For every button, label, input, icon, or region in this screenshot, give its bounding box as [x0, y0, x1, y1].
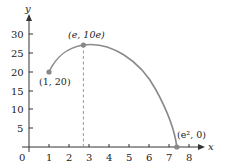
- x-tick-label: 8: [186, 152, 192, 163]
- point-label: (1, 20): [39, 76, 71, 87]
- curve: [49, 44, 177, 147]
- point-e-10e: [81, 42, 86, 47]
- origin-label: 0: [19, 152, 25, 163]
- y-tick-label: 30: [11, 29, 24, 40]
- y-ticks: [29, 34, 33, 128]
- x-axis-label: x: [208, 141, 214, 152]
- x-tick-label: 6: [146, 152, 152, 163]
- point-label: (e, 10e): [68, 29, 105, 40]
- point-e2-0: [174, 144, 179, 149]
- point-label: (e², 0): [177, 129, 206, 140]
- point-1-20: [46, 69, 51, 74]
- x-tick-label: 7: [166, 152, 172, 163]
- y-axis-label: y: [24, 3, 31, 14]
- x-axis-arrow-icon: [198, 144, 205, 150]
- x-tick-label: 3: [86, 152, 92, 163]
- x-tick-label: 4: [106, 152, 112, 163]
- y-tick-label: 5: [17, 123, 23, 134]
- chart: x y 0 1 2 3 4 5 6 7 8 5 10 15 20 25 30 (…: [0, 0, 225, 168]
- y-tick-label: 25: [11, 48, 24, 59]
- y-tick-label: 20: [11, 67, 24, 78]
- y-tick-label: 10: [11, 104, 24, 115]
- y-axis-arrow-icon: [26, 14, 32, 21]
- x-tick-label: 2: [66, 152, 72, 163]
- y-tick-label: 15: [11, 86, 24, 97]
- x-tick-label: 1: [46, 152, 52, 163]
- x-tick-label: 5: [126, 152, 132, 163]
